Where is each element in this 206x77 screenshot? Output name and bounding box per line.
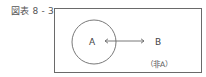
set-b-label: B bbox=[155, 37, 161, 47]
complement-label: （非A） bbox=[146, 60, 172, 70]
double-arrow-icon bbox=[105, 39, 144, 43]
venn-diagram bbox=[0, 0, 206, 77]
set-a-label: A bbox=[89, 37, 95, 47]
